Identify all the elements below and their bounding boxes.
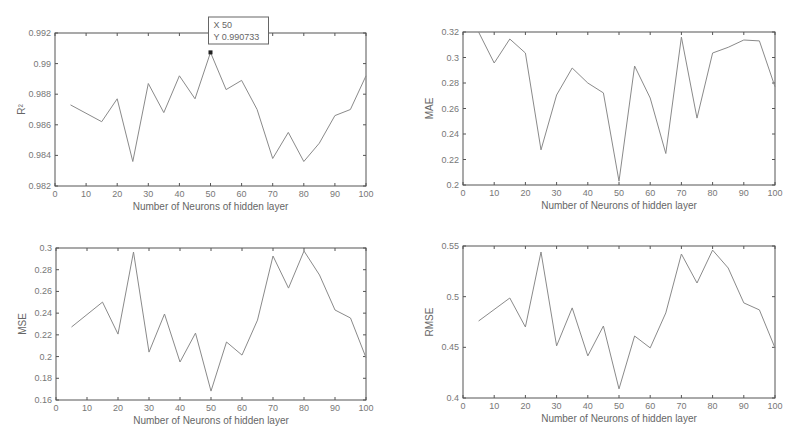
x-tick-label: 80 bbox=[299, 403, 309, 413]
y-tick-label: 0.28 bbox=[441, 78, 459, 88]
datatip-y: Y 0.990733 bbox=[214, 32, 260, 42]
plot-frame bbox=[56, 248, 366, 400]
panel-mse: 01020304050607080901000.160.180.20.220.2… bbox=[17, 243, 374, 426]
datatip-marker[interactable] bbox=[209, 50, 213, 54]
x-tick-label: 60 bbox=[237, 403, 247, 413]
x-tick-label: 30 bbox=[552, 401, 562, 411]
x-tick-label: 30 bbox=[552, 188, 562, 198]
x-tick-label: 30 bbox=[144, 403, 154, 413]
x-axis-title: Number of Neurons of hidden layer bbox=[133, 201, 289, 212]
x-tick-label: 100 bbox=[358, 189, 373, 199]
y-tick-label: 0.3 bbox=[39, 243, 52, 253]
y-tick-label: 0.24 bbox=[34, 308, 52, 318]
x-tick-label: 20 bbox=[112, 189, 122, 199]
y-axis-title: RMSE bbox=[424, 307, 435, 336]
x-tick-label: 70 bbox=[268, 189, 278, 199]
x-tick-label: 40 bbox=[174, 189, 184, 199]
x-tick-label: 20 bbox=[520, 188, 530, 198]
y-tick-label: 0.984 bbox=[28, 150, 51, 160]
y-tick-label: 0.26 bbox=[34, 286, 52, 296]
y-tick-label: 0.5 bbox=[446, 292, 459, 302]
y-tick-label: 0.16 bbox=[34, 395, 52, 405]
y-tick-label: 0.26 bbox=[441, 104, 459, 114]
x-tick-label: 0 bbox=[460, 188, 465, 198]
panel-mae: 01020304050607080901000.20.220.240.260.2… bbox=[424, 27, 783, 211]
y-tick-label: 0.22 bbox=[34, 330, 52, 340]
x-tick-label: 10 bbox=[489, 188, 499, 198]
y-tick-label: 0.24 bbox=[441, 129, 459, 139]
x-tick-label: 50 bbox=[614, 188, 624, 198]
y-axis-title: MSE bbox=[17, 313, 28, 335]
x-tick-label: 40 bbox=[583, 188, 593, 198]
y-axis-title: R² bbox=[16, 104, 27, 115]
x-tick-label: 60 bbox=[237, 189, 247, 199]
plot-frame bbox=[463, 32, 775, 185]
y-axis-title: MAE bbox=[424, 97, 435, 119]
y-tick-label: 0.99 bbox=[33, 59, 51, 69]
x-tick-label: 50 bbox=[614, 401, 624, 411]
x-tick-label: 30 bbox=[143, 189, 153, 199]
datatip-x: X 50 bbox=[214, 20, 233, 30]
x-tick-label: 40 bbox=[175, 403, 185, 413]
x-tick-label: 60 bbox=[645, 188, 655, 198]
panel-r2: 01020304050607080901000.9820.9840.9860.9… bbox=[16, 17, 374, 212]
x-tick-label: 40 bbox=[583, 401, 593, 411]
x-tick-label: 0 bbox=[460, 401, 465, 411]
x-tick-label: 20 bbox=[113, 403, 123, 413]
x-tick-label: 90 bbox=[330, 189, 340, 199]
x-tick-label: 100 bbox=[767, 401, 782, 411]
x-tick-label: 90 bbox=[330, 403, 340, 413]
y-tick-label: 0.3 bbox=[446, 53, 459, 63]
y-tick-label: 0.2 bbox=[39, 352, 52, 362]
x-tick-label: 90 bbox=[739, 188, 749, 198]
y-tick-label: 0.982 bbox=[28, 181, 51, 191]
x-tick-label: 80 bbox=[708, 401, 718, 411]
x-tick-label: 100 bbox=[767, 188, 782, 198]
x-tick-label: 70 bbox=[676, 188, 686, 198]
y-tick-label: 0.992 bbox=[28, 28, 51, 38]
x-axis-title: Number of Neurons of hidden layer bbox=[133, 415, 289, 426]
plot-frame bbox=[55, 33, 366, 186]
x-axis-title: Number of Neurons of hidden layer bbox=[541, 413, 697, 424]
panel-rmse: 01020304050607080901000.40.450.50.55Numb… bbox=[424, 241, 783, 424]
x-tick-label: 10 bbox=[81, 189, 91, 199]
x-tick-label: 80 bbox=[708, 188, 718, 198]
y-tick-label: 0.45 bbox=[441, 342, 459, 352]
x-tick-label: 70 bbox=[676, 401, 686, 411]
x-axis-title: Number of Neurons of hidden layer bbox=[541, 200, 697, 211]
y-tick-label: 0.988 bbox=[28, 89, 51, 99]
x-tick-label: 50 bbox=[205, 189, 215, 199]
figure-canvas: 01020304050607080901000.9820.9840.9860.9… bbox=[0, 0, 789, 447]
x-tick-label: 90 bbox=[739, 401, 749, 411]
x-tick-label: 80 bbox=[299, 189, 309, 199]
y-tick-label: 0.4 bbox=[446, 393, 459, 403]
y-tick-label: 0.986 bbox=[28, 120, 51, 130]
x-tick-label: 50 bbox=[206, 403, 216, 413]
y-tick-label: 0.22 bbox=[441, 155, 459, 165]
x-tick-label: 10 bbox=[82, 403, 92, 413]
x-tick-label: 100 bbox=[358, 403, 373, 413]
y-tick-label: 0.18 bbox=[34, 373, 52, 383]
x-tick-label: 20 bbox=[520, 401, 530, 411]
y-tick-label: 0.32 bbox=[441, 27, 459, 37]
y-tick-label: 0.28 bbox=[34, 265, 52, 275]
y-tick-label: 0.55 bbox=[441, 241, 459, 251]
x-tick-label: 70 bbox=[268, 403, 278, 413]
x-tick-label: 0 bbox=[53, 403, 58, 413]
x-tick-label: 10 bbox=[489, 401, 499, 411]
x-tick-label: 0 bbox=[52, 189, 57, 199]
y-tick-label: 0.2 bbox=[446, 180, 459, 190]
x-tick-label: 60 bbox=[645, 401, 655, 411]
